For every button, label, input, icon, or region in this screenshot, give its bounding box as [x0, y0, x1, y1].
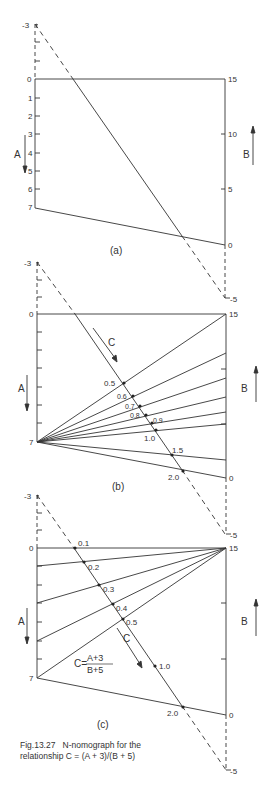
a-tick-4: 4	[28, 149, 33, 158]
c-val-1.5: 1.5	[172, 446, 184, 455]
c-a-tick-0: 0	[29, 544, 34, 553]
b-a-axis-label: A	[18, 383, 25, 394]
b-c-axis-label: C	[108, 337, 115, 348]
b-a-tick-0: 0	[29, 310, 34, 319]
panel-b	[25, 262, 258, 534]
formula-numerator: A+3	[87, 653, 103, 663]
panel-c-label: (c)	[97, 719, 109, 730]
b-tick-0: 0	[228, 241, 233, 250]
panel-c	[25, 495, 258, 770]
b-tick-15: 15	[228, 75, 237, 84]
c-b-tick-0: 0	[229, 711, 234, 720]
a-tick-2: 2	[28, 112, 33, 121]
c-val-1.0: 1.0	[144, 434, 156, 443]
c-val-0.6: 0.6	[117, 393, 127, 400]
a-tick-7: 7	[28, 203, 33, 212]
panel-a	[23, 24, 255, 298]
c-a-tick-neg3: -3	[24, 492, 32, 501]
b-b-axis-label: B	[241, 383, 248, 394]
a-tick-1: 1	[28, 94, 33, 103]
caption-line-2: relationship C = (A + 3)/(B + 5)	[20, 751, 141, 762]
c-val-0.1: 0.1	[78, 539, 90, 548]
c-b-tick-15: 15	[229, 544, 238, 553]
c-val-0.5: 0.5	[104, 379, 116, 388]
c-c-axis-label: C	[123, 633, 130, 644]
a-tick-5: 5	[28, 167, 33, 176]
c-val-0.7: 0.7	[125, 403, 135, 410]
b-a-tick-7: 7	[29, 438, 34, 447]
a-tick-0: 0	[27, 75, 32, 84]
b-tick-neg5: -5	[230, 295, 238, 304]
c-b-tick-neg5: -5	[230, 767, 238, 776]
formula-denominator: B+5	[87, 665, 103, 675]
panel-a-label: (a)	[110, 245, 122, 256]
c-val-2.0: 2.0	[168, 473, 180, 482]
a-tick-6: 6	[28, 185, 33, 194]
b-b-tick-0: 0	[229, 474, 234, 483]
c-a-axis-label: A	[18, 616, 25, 627]
nomograph-figure: -3 0 1 2 3 4 5 6 7 15 10 5 0 -5 A B (a) …	[0, 0, 275, 787]
c-val-0.4: 0.4	[116, 604, 128, 613]
c-val-0.8: 0.8	[130, 412, 140, 419]
b-tick-5: 5	[228, 185, 233, 194]
c-val-0.9: 0.9	[153, 417, 163, 424]
c-val-0.2: 0.2	[88, 563, 100, 572]
c-val-0.5: 0.5	[126, 618, 138, 627]
b-tick-10: 10	[228, 130, 237, 139]
c-val-1.0: 1.0	[159, 662, 171, 671]
c-a-tick-7: 7	[29, 674, 34, 683]
b-b-tick-15: 15	[229, 310, 238, 319]
a-axis-label: A	[14, 149, 21, 160]
figure-caption: Fig.13.27 N-nomograph for therelationshi…	[20, 740, 141, 762]
panel-b-label: (b)	[112, 481, 124, 492]
caption-line-1: Fig.13.27 N-nomograph for the	[20, 740, 141, 751]
b-axis-label: B	[243, 149, 250, 160]
c-val-0.3: 0.3	[103, 585, 115, 594]
c-b-axis-label: B	[241, 616, 248, 627]
b-a-tick-neg3: -3	[24, 259, 32, 268]
a-tick-3: 3	[28, 130, 33, 139]
formula-prefix: C=	[74, 658, 87, 669]
c-val-2.0: 2.0	[167, 709, 179, 718]
b-b-tick-neg5: -5	[230, 531, 238, 540]
a-tick-neg3: -3	[22, 21, 30, 30]
